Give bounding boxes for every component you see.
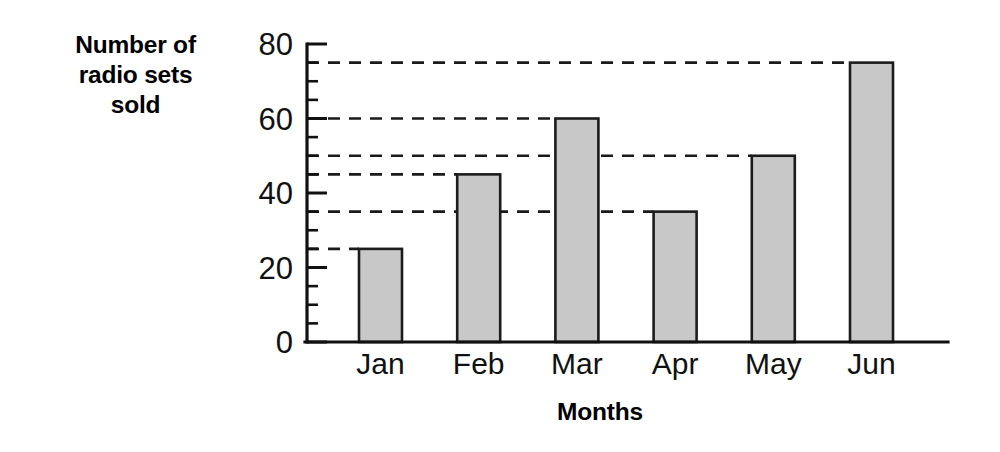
- y-axis-tick-labels: 020406080: [259, 27, 293, 360]
- x-tick-label-jan: Jan: [356, 347, 404, 380]
- bar-mar: [555, 119, 598, 343]
- y-tick-label-80: 80: [259, 27, 293, 62]
- bar-may: [752, 156, 795, 342]
- y-tick-label-40: 40: [259, 176, 293, 211]
- y-tick-label-20: 20: [259, 251, 293, 286]
- plot-area: 020406080 JanFebMarAprMayJun: [0, 0, 1000, 452]
- x-tick-label-feb: Feb: [453, 347, 505, 380]
- bar-apr: [654, 212, 697, 342]
- bar-chart-figure: Number of radio sets sold Months 0204060…: [0, 0, 1000, 452]
- bars-group: [359, 63, 893, 342]
- x-tick-label-apr: Apr: [652, 347, 699, 380]
- x-tick-label-may: May: [745, 347, 802, 380]
- bar-jan: [359, 249, 402, 342]
- bar-feb: [457, 174, 500, 342]
- y-axis-ticks: [307, 44, 327, 342]
- x-tick-label-jun: Jun: [847, 347, 895, 380]
- y-tick-label-0: 0: [276, 325, 293, 360]
- y-tick-label-60: 60: [259, 102, 293, 137]
- x-tick-label-mar: Mar: [551, 347, 603, 380]
- bar-jun: [850, 63, 893, 342]
- x-axis-category-labels: JanFebMarAprMayJun: [356, 347, 895, 380]
